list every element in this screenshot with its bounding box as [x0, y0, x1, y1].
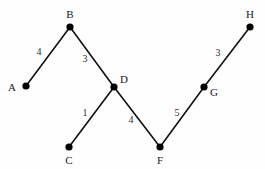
node-label-g: G	[210, 87, 218, 98]
edge-weight-a-b: 4	[37, 47, 42, 57]
node-layer	[22, 23, 253, 150]
node-label-c: C	[65, 155, 72, 166]
graph-edge-g-h	[204, 27, 250, 87]
node-label-h: H	[246, 9, 254, 20]
graph-node-g	[200, 83, 207, 90]
graph-edge-a-b	[26, 27, 70, 86]
graph-canvas	[0, 0, 265, 169]
node-label-b: B	[66, 9, 73, 20]
graph-node-d	[110, 83, 117, 90]
graph-node-c	[65, 143, 72, 150]
node-label-a: A	[8, 82, 16, 93]
node-label-f: F	[157, 155, 163, 166]
graph-node-f	[156, 143, 163, 150]
edge-weight-f-g: 5	[175, 108, 180, 118]
edge-weight-g-h: 3	[216, 48, 221, 58]
graph-node-h	[246, 23, 253, 30]
graph-edge-d-f	[114, 87, 160, 147]
graph-node-b	[66, 23, 73, 30]
graph-edge-c-d	[69, 87, 114, 147]
edge-weight-b-d: 3	[83, 54, 88, 64]
node-label-d: D	[120, 74, 128, 85]
graph-edge-b-d	[70, 27, 114, 87]
weighted-graph-diagram: ABCDFGH 431453	[0, 0, 265, 169]
edge-weight-d-f: 4	[129, 115, 134, 125]
edge-weight-c-d: 1	[83, 108, 88, 118]
graph-edge-f-g	[160, 87, 204, 147]
graph-node-a	[22, 82, 29, 89]
